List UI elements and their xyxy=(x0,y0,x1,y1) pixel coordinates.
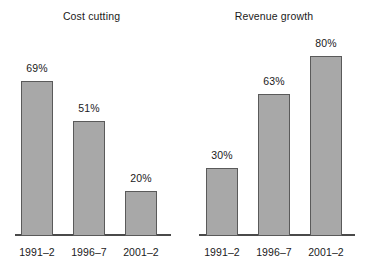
bar-chart-figure: Cost cutting 69% 1991–2 51% 1996–7 20% 2… xyxy=(0,0,365,273)
bar-label-revenue-2001-2: 80% xyxy=(302,37,350,49)
x-tick-label-revenue-2001-2: 2001–2 xyxy=(298,246,354,259)
bar-label-revenue-1991-2: 30% xyxy=(198,149,246,161)
bar-cost-1996-7 xyxy=(73,121,105,236)
bar-label-cost-2001-2: 20% xyxy=(117,172,165,184)
bar-revenue-1991-2 xyxy=(206,168,238,236)
panel-revenue-growth: Revenue growth 30% 1991–2 63% 1996–7 80%… xyxy=(183,0,365,273)
x-tick-label-revenue-1991-2: 1991–2 xyxy=(194,246,250,259)
x-tick-label-cost-1996-7: 1996–7 xyxy=(61,246,117,259)
plot-area-cost-cutting: 69% 1991–2 51% 1996–7 20% 2001–2 xyxy=(0,0,183,273)
bar-label-revenue-1996-7: 63% xyxy=(250,75,298,87)
panel-cost-cutting: Cost cutting 69% 1991–2 51% 1996–7 20% 2… xyxy=(0,0,183,273)
x-tick-label-cost-2001-2: 2001–2 xyxy=(113,246,169,259)
bar-cost-2001-2 xyxy=(125,191,157,236)
bar-label-cost-1996-7: 51% xyxy=(65,102,113,114)
plot-area-revenue-growth: 30% 1991–2 63% 1996–7 80% 2001–2 xyxy=(183,0,365,273)
bar-cost-1991-2 xyxy=(21,81,53,236)
x-tick-label-cost-1991-2: 1991–2 xyxy=(9,246,65,259)
x-tick-label-revenue-1996-7: 1996–7 xyxy=(246,246,302,259)
bar-revenue-2001-2 xyxy=(310,56,342,236)
bar-revenue-1996-7 xyxy=(258,94,290,236)
bar-label-cost-1991-2: 69% xyxy=(13,62,61,74)
